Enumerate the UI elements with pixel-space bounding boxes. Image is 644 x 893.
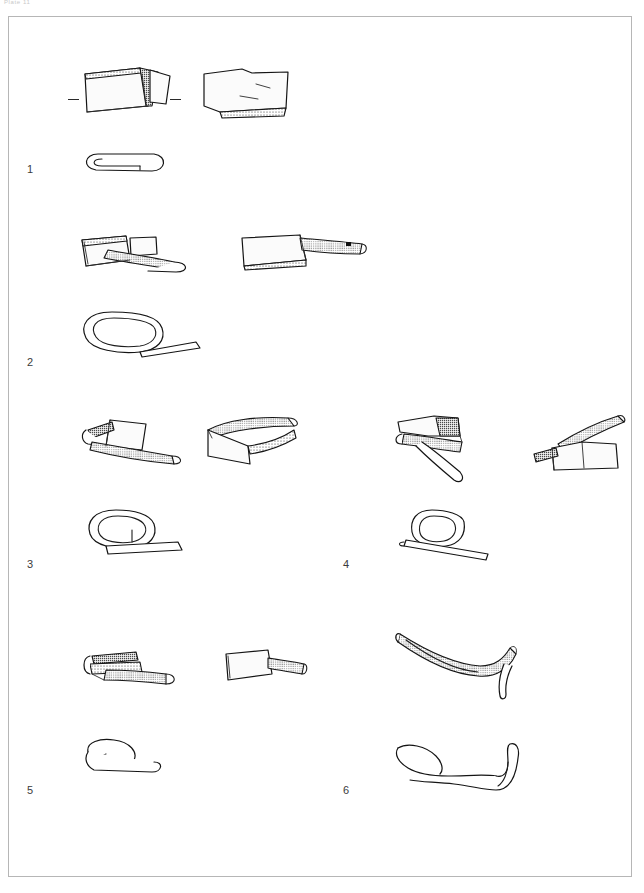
figure-5-perspective-right	[222, 648, 308, 690]
figure-3-perspective-left	[80, 418, 186, 466]
figure-1-scale-tick-right	[170, 99, 181, 100]
figure-2-perspective-right	[238, 232, 368, 278]
figure-4-number: 4	[343, 558, 349, 570]
figure-5-number: 5	[27, 784, 33, 796]
figure-2-number: 2	[27, 356, 33, 368]
figure-1-perspective-left	[80, 62, 180, 124]
figure-4-perspective-right	[530, 414, 626, 476]
figure-1-profile-section	[80, 148, 176, 180]
figure-4-perspective-left	[390, 414, 490, 486]
figure-2-perspective-left	[78, 232, 202, 280]
figure-2-profile-section	[78, 310, 204, 358]
figure-1-scale-tick-left	[68, 99, 79, 100]
figure-6-perspective	[392, 630, 522, 702]
figure-1-number: 1	[27, 163, 33, 175]
figure-1-perspective-right	[200, 66, 296, 124]
figure-3-profile-section	[82, 508, 192, 556]
figure-6-profile-section	[392, 742, 528, 800]
figure-5-profile-section	[80, 738, 176, 776]
figure-4-profile-section	[398, 508, 500, 560]
figure-5-perspective-left	[82, 650, 184, 690]
figure-3-perspective-right	[202, 416, 300, 470]
figure-6-number: 6	[343, 784, 349, 796]
figure-3-number: 3	[27, 558, 33, 570]
plate-caption: Plate 11	[4, 0, 30, 6]
